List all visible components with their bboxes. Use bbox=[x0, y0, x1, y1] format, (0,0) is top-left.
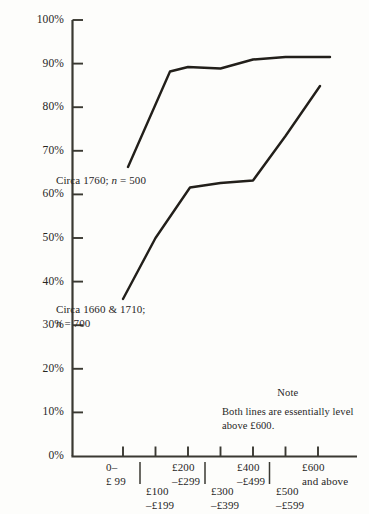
y-tick-label-80: 80% bbox=[16, 101, 64, 113]
y-tick-label-70: 70% bbox=[16, 145, 64, 157]
note-body: Both lines are essentially level above £… bbox=[222, 405, 354, 433]
series-line-circa-1760 bbox=[128, 57, 330, 167]
series-1660-n-italic: n bbox=[56, 317, 62, 329]
series-label-circa-1760: Circa 1760; n = 500 bbox=[56, 174, 146, 188]
y-axis-ticks bbox=[73, 20, 84, 412]
note-block: Note Both lines are essentially level ab… bbox=[222, 386, 354, 433]
series-1760-prefix: Circa 1760; bbox=[56, 174, 109, 186]
y-tick-label-10: 10% bbox=[16, 406, 64, 418]
y-tick-label-40: 40% bbox=[16, 276, 64, 288]
y-tick-label-90: 90% bbox=[16, 58, 64, 70]
x-tick-label-0-99: 0– £ 99 bbox=[106, 461, 126, 488]
series-1660-suffix: = 700 bbox=[64, 317, 90, 329]
series-1760-suffix: = 500 bbox=[120, 174, 146, 186]
series-label-circa-1660-1710: Circa 1660 & 1710; n = 700 bbox=[56, 303, 145, 330]
series-1760-n-italic: n bbox=[112, 174, 118, 186]
x-tick-label-400-499: £400 –£499 bbox=[237, 461, 265, 488]
x-axis-ticks bbox=[123, 447, 318, 457]
y-tick-label-20: 20% bbox=[16, 363, 64, 375]
x-tick-label-300-399: £300 –£399 bbox=[211, 485, 239, 512]
series-line-circa-1660-1710 bbox=[123, 86, 320, 299]
y-tick-label-60: 60% bbox=[16, 188, 64, 200]
y-tick-label-50: 50% bbox=[16, 232, 64, 244]
x-tick-label-500-599: £500 –£599 bbox=[276, 485, 304, 512]
series-1660-line1: Circa 1660 & 1710; bbox=[56, 303, 145, 317]
x-tick-label-600-and-above: £600 and above bbox=[302, 461, 348, 488]
x-tick-label-100-199: £100 –£199 bbox=[146, 485, 174, 512]
note-title: Note bbox=[222, 386, 354, 400]
line-chart-plot bbox=[0, 0, 369, 514]
y-tick-label-0: 0% bbox=[16, 450, 64, 462]
y-tick-label-100: 100% bbox=[16, 14, 64, 26]
chart-page: 100% 90% 80% 70% 60% 50% 40% 30% 20% 10%… bbox=[0, 0, 369, 514]
x-tick-label-200-299: £200 –£299 bbox=[172, 461, 200, 488]
